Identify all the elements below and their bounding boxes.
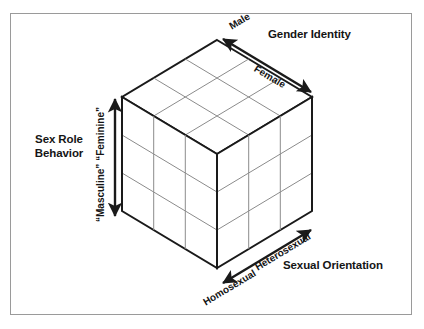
sex-role-behavior-axis-title: Sex Role Behavior (28, 133, 90, 160)
sex-role-behavior-pole-labels: “Masculine” “Feminine” (95, 107, 106, 222)
gender-identity-axis-title: Gender Identity (268, 28, 351, 42)
figure-root: Gender Identity Sexual Orientation Sex R… (0, 0, 424, 329)
sex-role-title-line-1: Sex Role (35, 133, 83, 145)
sex-role-title-line-2: Behavior (35, 147, 83, 159)
sexual-orientation-axis-title: Sexual Orientation (283, 259, 383, 273)
isometric-cube-diagram (0, 0, 424, 329)
